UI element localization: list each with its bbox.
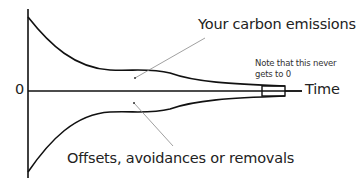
note-line-2: gets to 0 — [255, 69, 291, 80]
emissions-pointer — [135, 38, 205, 78]
offsets-pointer-dot — [133, 102, 135, 104]
emissions-label: Your carbon emissions — [198, 16, 356, 32]
emissions-pointer-dot — [134, 77, 136, 79]
zero-label: 0 — [15, 81, 24, 97]
offsets-label: Offsets, avoidances or removals — [67, 150, 294, 166]
time-axis-label: Time — [305, 81, 340, 97]
note-line-1: Note that this never — [255, 58, 336, 69]
